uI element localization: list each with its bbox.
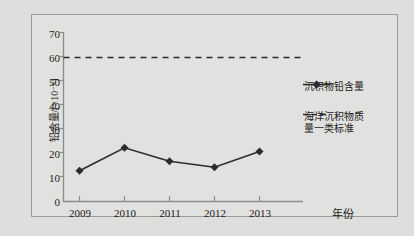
data-point-2009: [76, 167, 84, 175]
data-point-2011: [166, 157, 174, 165]
legend-diamond-icon: [313, 81, 321, 89]
chart-canvas: [0, 0, 414, 236]
data-point-2010: [121, 144, 129, 152]
data-point-2013: [256, 147, 264, 155]
legend-marks-group: [303, 81, 330, 115]
data-point-2012: [211, 163, 219, 171]
